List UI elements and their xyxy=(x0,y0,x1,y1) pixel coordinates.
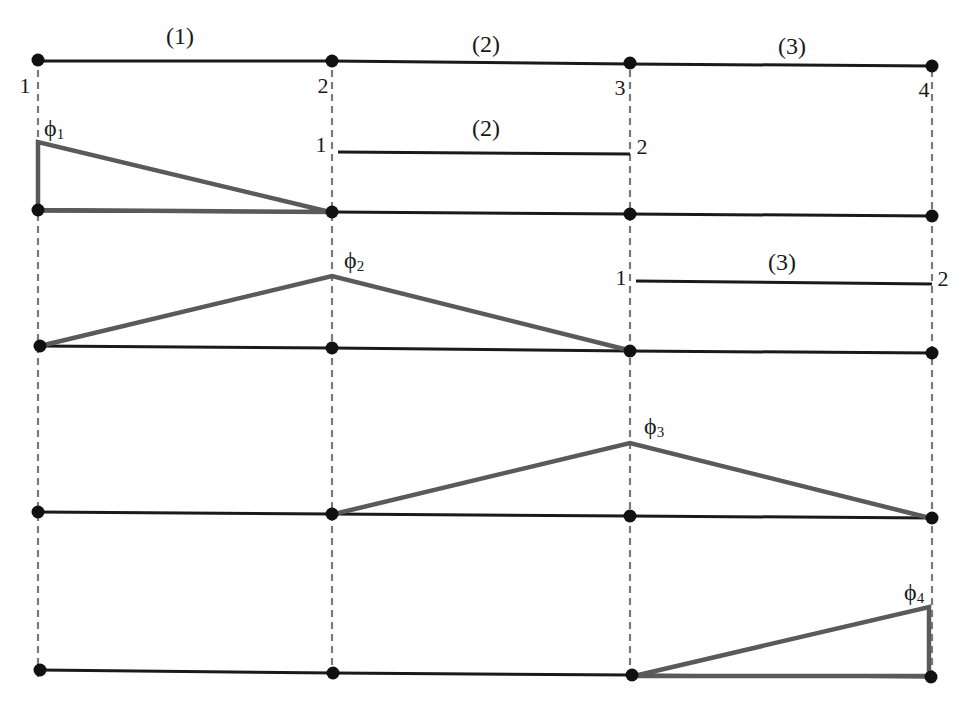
node-dot xyxy=(326,342,339,355)
phi4-shape xyxy=(634,607,929,676)
local-node-end-label: 2 xyxy=(637,134,648,159)
shape-function-row-4: ϕ4 xyxy=(34,579,938,684)
local-element-label: (3) xyxy=(768,249,796,275)
node-dot xyxy=(926,347,939,360)
global-node-2 xyxy=(326,55,339,68)
phi1-label: ϕ1 xyxy=(44,115,64,142)
node-dot xyxy=(327,667,340,680)
node-dot xyxy=(926,210,939,223)
global-node-label-1: 1 xyxy=(20,73,31,98)
node-dot xyxy=(34,340,47,353)
mesh-row: (1) (2) (3) 1 2 3 4 xyxy=(20,23,939,102)
mesh-line xyxy=(38,61,932,66)
phi4-label: ϕ4 xyxy=(904,579,925,606)
shape-function-diagram: (1) (2) (3) 1 2 3 4 (2) 1 2 ϕ1 (3) 1 2 xyxy=(0,0,978,713)
global-node-1 xyxy=(32,54,45,67)
node-dot xyxy=(624,510,637,523)
phi3-shape xyxy=(334,443,930,518)
local-node-start-label: 1 xyxy=(316,132,327,157)
global-node-label-4: 4 xyxy=(919,77,930,102)
global-node-4 xyxy=(926,60,939,73)
element-label-1: (1) xyxy=(166,23,194,49)
element-label-3: (3) xyxy=(778,33,806,59)
node-dot xyxy=(32,204,45,217)
node-dot xyxy=(32,506,45,519)
element-label-2: (2) xyxy=(472,31,500,57)
node-dot xyxy=(326,508,339,521)
node-dot xyxy=(926,512,939,525)
local-element-line xyxy=(338,152,630,154)
node-dot xyxy=(626,669,639,682)
global-node-3 xyxy=(624,57,637,70)
phi2-label: ϕ2 xyxy=(344,247,364,274)
global-node-label-2: 2 xyxy=(318,73,329,98)
phi3-label: ϕ3 xyxy=(644,413,664,440)
node-dot xyxy=(925,671,938,684)
baseline xyxy=(40,346,932,353)
global-node-label-3: 3 xyxy=(615,75,626,100)
baseline xyxy=(38,512,932,518)
shape-function-row-3: ϕ3 xyxy=(32,413,939,525)
phi1-shape xyxy=(38,142,330,212)
node-dot xyxy=(624,208,637,221)
local-node-end-label: 2 xyxy=(938,266,949,291)
node-dot xyxy=(34,664,47,677)
phi2-shape xyxy=(40,276,628,350)
node-dot xyxy=(624,345,637,358)
local-node-start-label: 1 xyxy=(616,265,627,290)
node-dot xyxy=(326,206,339,219)
local-element-2: (2) 1 2 xyxy=(316,115,648,159)
local-element-3: (3) 1 2 xyxy=(616,249,949,291)
local-element-label: (2) xyxy=(472,115,500,141)
node-guide-lines xyxy=(38,70,932,680)
shape-function-row-2: ϕ2 xyxy=(34,247,939,360)
local-element-line xyxy=(636,281,932,284)
